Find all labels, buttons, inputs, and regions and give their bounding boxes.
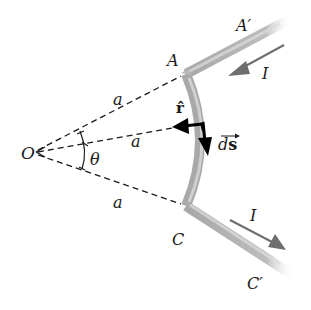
label-origin-O: O	[21, 145, 35, 162]
r-hat-arrowhead-icon	[172, 118, 189, 134]
label-ds-s: s	[228, 137, 237, 153]
label-unit-vector-r-hat: r̂	[176, 101, 184, 116]
label-point-A-prime: A′	[236, 18, 251, 34]
radius-lines	[38, 76, 181, 204]
label-ds-vector: ds	[218, 137, 237, 153]
biot-savart-arc-diagram: O θ a a a A A′ C C′ I I r̂ ds	[0, 0, 311, 310]
label-radius-a-lower: a	[113, 195, 123, 211]
label-current-upper: I	[262, 66, 268, 82]
current-arrowhead-upper-icon	[228, 61, 250, 76]
label-current-lower: I	[250, 208, 256, 224]
wire-arc-A-C	[186, 74, 200, 206]
diagram-canvas	[0, 0, 311, 310]
radius-line-OC	[38, 155, 181, 204]
vector-arrow-over-ds-icon	[221, 133, 241, 139]
wire-segment-C-C-prime-highlight	[190, 205, 280, 264]
label-radius-a-upper: a	[113, 92, 123, 108]
current-arrowhead-lower-icon	[268, 234, 286, 250]
angle-theta-arc	[80, 131, 85, 169]
label-point-C: C	[172, 232, 184, 248]
label-angle-theta: θ	[90, 152, 100, 168]
label-radius-a-middle: a	[131, 134, 141, 150]
label-point-A: A	[167, 53, 179, 69]
label-point-C-prime: C′	[247, 276, 263, 292]
